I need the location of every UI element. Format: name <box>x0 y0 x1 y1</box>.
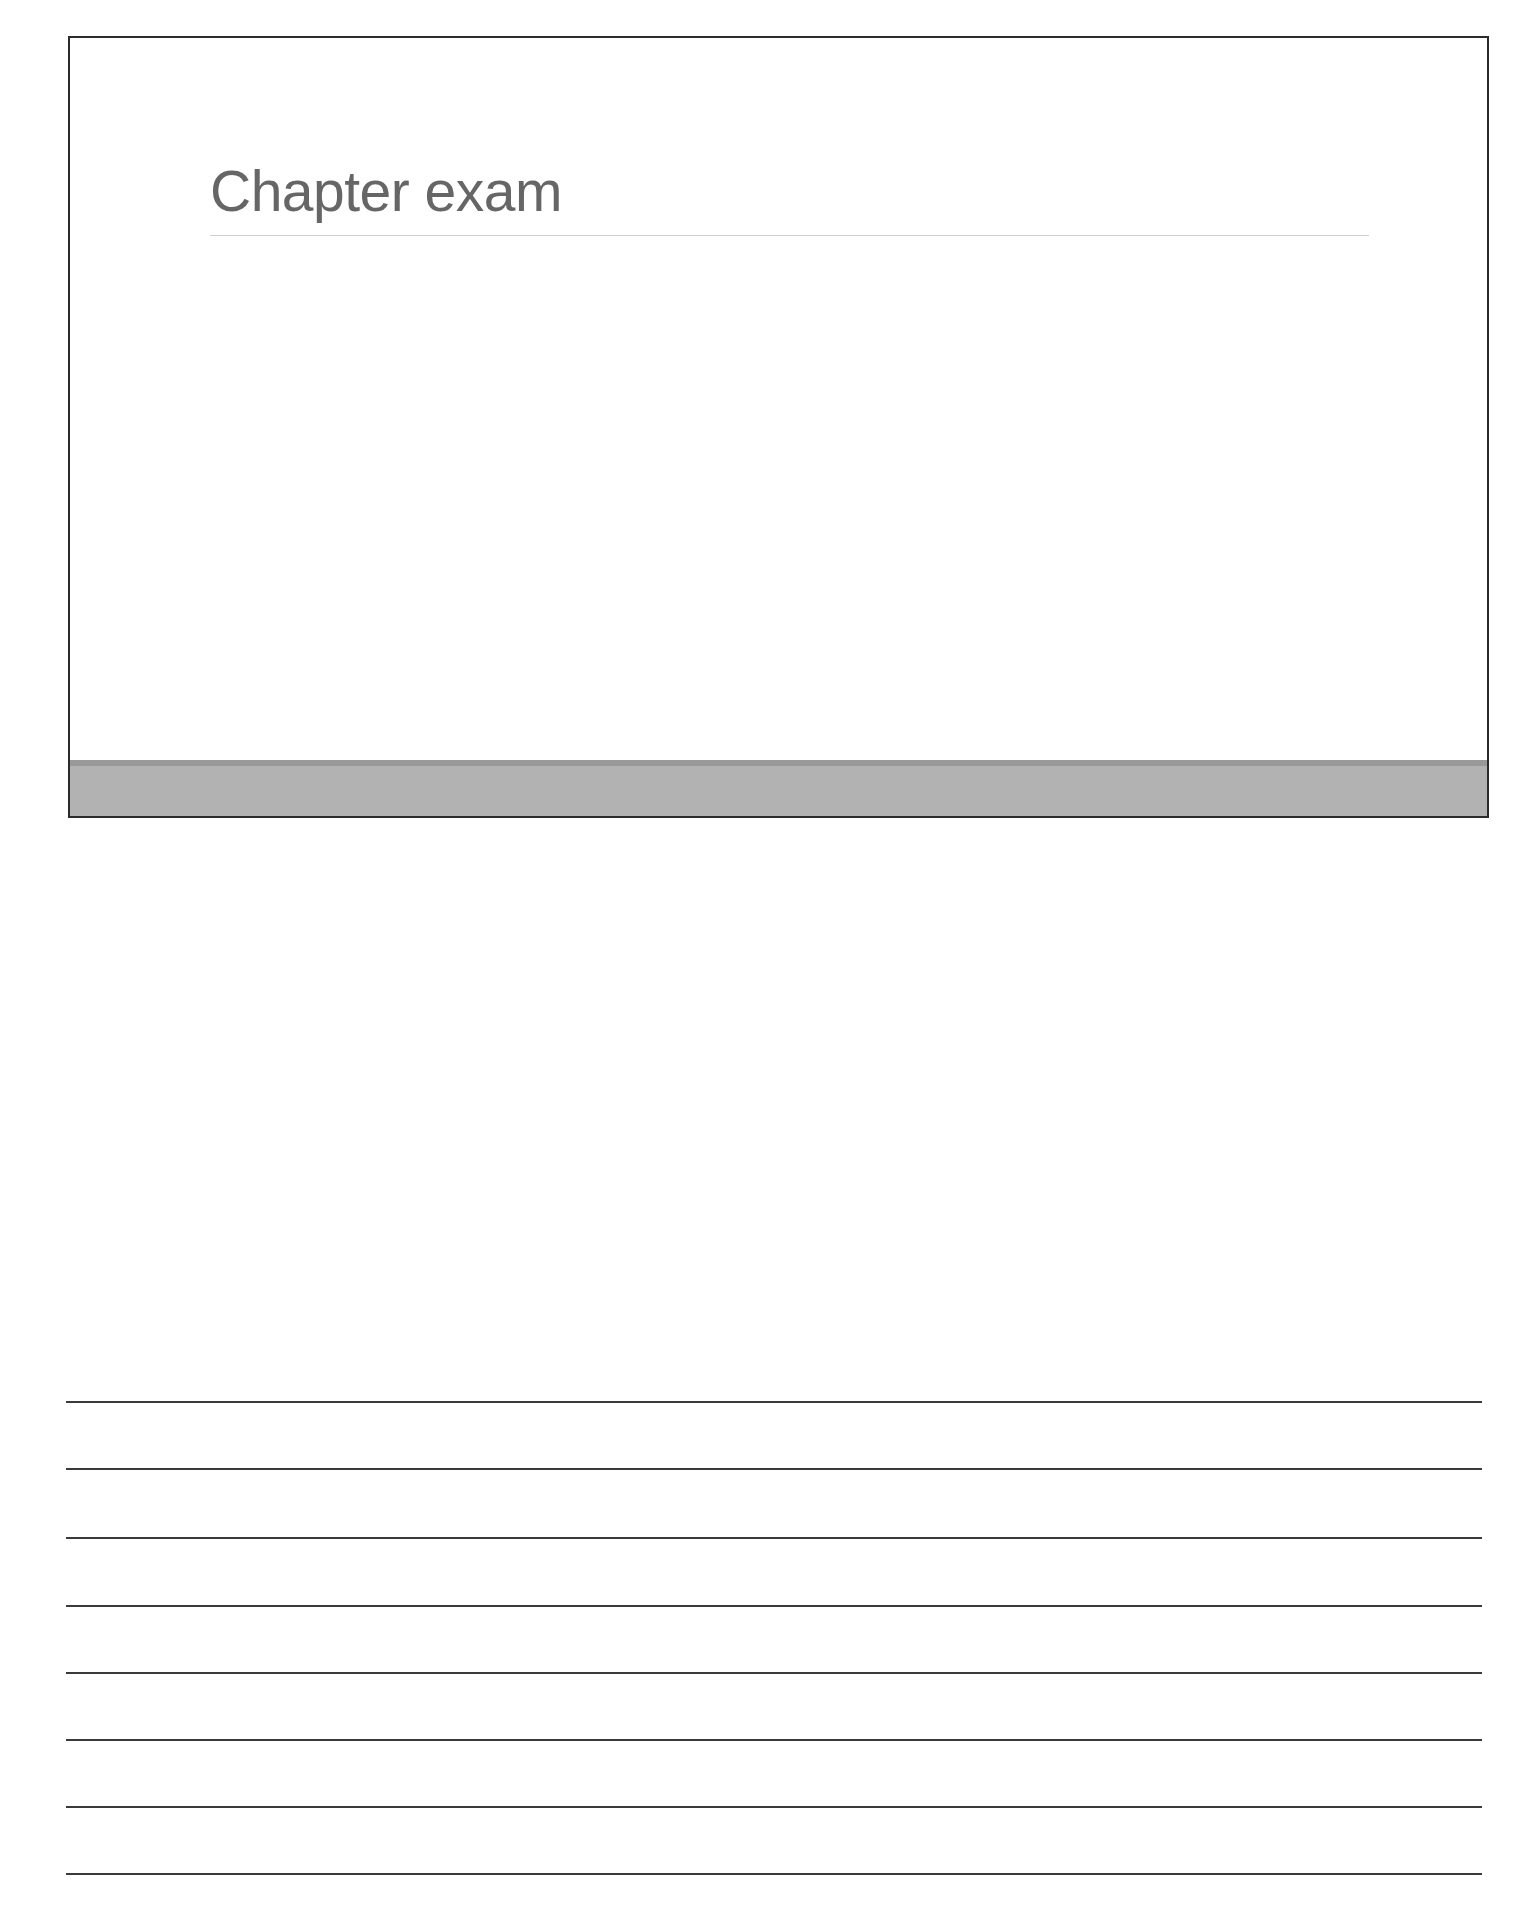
note-line <box>66 1605 1482 1607</box>
note-line <box>66 1468 1482 1470</box>
note-line <box>66 1672 1482 1674</box>
note-line <box>66 1739 1482 1741</box>
slide-footer-bar <box>70 760 1487 816</box>
slide-title: Chapter exam <box>210 156 562 226</box>
slide-thumbnail: Chapter exam <box>68 36 1489 818</box>
note-line <box>66 1806 1482 1808</box>
note-line <box>66 1537 1482 1539</box>
title-underline <box>210 235 1369 236</box>
slide-footer-bar-strip <box>70 760 1487 766</box>
note-line <box>66 1401 1482 1403</box>
note-line <box>66 1873 1482 1875</box>
